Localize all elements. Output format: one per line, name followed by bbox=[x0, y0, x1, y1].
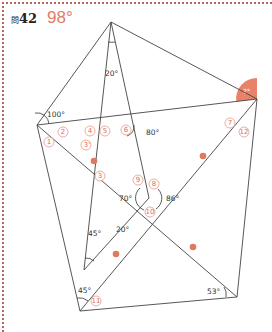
angle-bottom-right: 53° bbox=[207, 287, 221, 296]
svg-text:6: 6 bbox=[124, 126, 129, 134]
marker-10: 10 bbox=[145, 207, 155, 217]
line-top-center bbox=[111, 22, 149, 198]
marker-1: 1 bbox=[44, 137, 54, 147]
angle-center-right: 86° bbox=[166, 194, 180, 203]
marker-3p: 3' bbox=[81, 140, 91, 150]
marker-6: 6 bbox=[121, 125, 131, 135]
svg-text:11: 11 bbox=[92, 297, 101, 305]
midpoint-dot bbox=[200, 153, 207, 160]
angle-bottom-left: 45° bbox=[78, 286, 92, 295]
svg-text:1: 1 bbox=[47, 138, 51, 146]
angle-top: 20° bbox=[105, 69, 119, 78]
arc-center-left bbox=[136, 188, 144, 210]
marker-2: 2 bbox=[58, 127, 68, 137]
svg-text:7: 7 bbox=[228, 119, 232, 127]
marker-7: 7 bbox=[225, 118, 235, 128]
svg-text:3': 3' bbox=[84, 141, 90, 149]
line-left-right bbox=[37, 99, 257, 125]
marker-11: 11 bbox=[91, 296, 101, 306]
svg-text:9: 9 bbox=[136, 176, 140, 184]
outer-pentagon bbox=[37, 22, 257, 311]
svg-text:12: 12 bbox=[240, 128, 249, 136]
angle-left: 100° bbox=[47, 110, 65, 119]
arc-center-right bbox=[156, 189, 162, 209]
angle-center-left: 70° bbox=[119, 194, 133, 203]
midpoint-dot bbox=[190, 244, 197, 251]
svg-text:2: 2 bbox=[61, 128, 65, 136]
marker-3: 3 bbox=[95, 171, 105, 181]
marker-9: 9 bbox=[133, 175, 143, 185]
arc-bottom-left bbox=[77, 298, 88, 301]
angle-inner-bottom-left: 45° bbox=[88, 229, 102, 238]
midpoint-dot bbox=[91, 158, 98, 165]
marker-12: 12 bbox=[239, 127, 249, 137]
svg-text:3: 3 bbox=[98, 172, 102, 180]
angle-mid-right: 80° bbox=[146, 128, 160, 137]
svg-text:10: 10 bbox=[146, 208, 155, 216]
midpoint-dot bbox=[113, 251, 120, 258]
svg-text:4: 4 bbox=[88, 127, 93, 135]
marker-5: 5 bbox=[100, 126, 110, 136]
marker-8: 8 bbox=[149, 179, 159, 189]
angle-inner-lower: 20° bbox=[116, 225, 130, 234]
svg-text:5: 5 bbox=[103, 127, 107, 135]
marker-4: 4 bbox=[85, 126, 95, 136]
svg-text:8: 8 bbox=[152, 180, 156, 188]
arc-bottom-right bbox=[224, 287, 226, 297]
